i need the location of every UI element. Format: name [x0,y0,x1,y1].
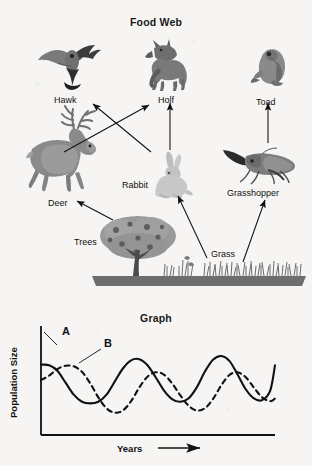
x-axis-label: Years [117,443,142,454]
series-b-label: B [104,337,112,349]
series-a-curve [41,356,275,403]
population-graph: Population Size Years A B [0,300,312,466]
series-b-curve [41,365,275,412]
arrow-rabbit-to-hawk [93,104,151,152]
arrow-grass-to-grasshopper [243,200,265,262]
y-axis-label: Population Size [8,347,19,418]
arrow-trees-to-deer [77,201,113,220]
callout-line-a [44,332,57,345]
callout-line-b [79,349,101,363]
food-web-arrow-layer [0,0,312,300]
arrow-grass-to-rabbit [178,196,207,258]
series-a-label: A [62,325,70,337]
graph-callout-lines [44,332,101,363]
arrow-deer-to-wolf [64,105,149,152]
